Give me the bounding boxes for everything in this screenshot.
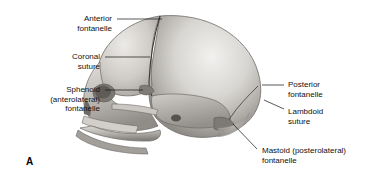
panel-letter: A [26, 156, 33, 167]
anatomical-figure: Anterior fontanelleCoronal sutureSphenoi… [0, 0, 370, 186]
label-posterior-fontanelle: Posterior fontanelle [288, 80, 323, 99]
leader-line-mastoid-fontanelle [233, 124, 257, 149]
label-mastoid-fontanelle: Mastoid (posterolateral) fontanelle [262, 146, 346, 165]
label-lambdoid-suture: Lambdoid suture [288, 107, 323, 126]
external-acoustic-meatus [171, 114, 181, 121]
leader-line-lambdoid-suture [264, 100, 284, 109]
label-anterior-fontanelle: Anterior fontanelle [0, 14, 112, 33]
label-coronal-suture: Coronal suture [0, 52, 100, 71]
label-sphenoid-fontanelle: Sphenoid (anterolateral) fontanelle [0, 85, 100, 114]
